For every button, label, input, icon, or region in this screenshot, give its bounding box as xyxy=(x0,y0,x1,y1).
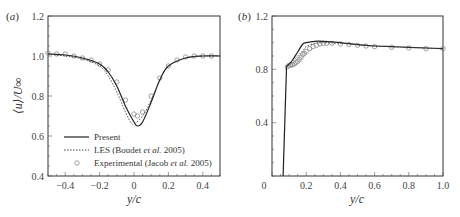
y-tick-label: 0.8 xyxy=(256,64,269,75)
x-tick-label: 0.2 xyxy=(300,180,313,191)
x-tick-label: 0.4 xyxy=(197,180,210,191)
panel-b-plot-area xyxy=(283,41,445,176)
panel-a-y-axis-label: ⟨u⟩/U∞ xyxy=(11,78,25,114)
x-tick-label: 0.8 xyxy=(403,180,416,191)
panel-a-x-axis: −0.4−0.200.20.4 xyxy=(48,172,220,191)
legend-item-present: Present xyxy=(94,132,121,142)
series-line-les xyxy=(48,54,220,124)
y-tick-label: 0.4 xyxy=(256,117,269,128)
x-tick-label: 0.2 xyxy=(162,180,175,191)
data-point-marker xyxy=(135,114,139,118)
panel-b-label: (b) xyxy=(238,10,251,23)
x-tick-label: 0 xyxy=(262,180,267,191)
data-point-marker xyxy=(390,45,394,49)
series-line-present xyxy=(283,41,443,176)
y-tick-label: 1.2 xyxy=(32,11,45,22)
x-tick-label: −0.4 xyxy=(56,180,74,191)
panel-b: (b) 0.40.81.2 00.20.40.60.81.0 y/c xyxy=(238,10,449,206)
y-tick-label: 1.2 xyxy=(256,11,269,22)
y-tick-label: 0.8 xyxy=(32,91,45,102)
y-tick-label: 0.6 xyxy=(32,131,45,142)
panel-a-x-axis-label: y/c xyxy=(126,192,142,206)
x-tick-label: 0.4 xyxy=(334,180,347,191)
y-tick-label: 0.4 xyxy=(32,171,45,182)
panel-a-y-axis: 0.40.60.81.01.2 xyxy=(32,11,53,182)
panel-a: (a) 0.40.60.81.01.2 −0.4−0.200.20.4 y/c … xyxy=(6,10,220,206)
x-tick-label: 0 xyxy=(132,180,137,191)
series-line-present xyxy=(48,54,220,126)
panel-b-frame xyxy=(272,16,443,176)
x-tick-label: 1.0 xyxy=(437,180,450,191)
y-tick-label: 1.0 xyxy=(32,51,45,62)
legend: Present LES (Boudet et al. 2005) Experim… xyxy=(64,132,212,168)
panel-b-x-axis: 00.20.40.60.81.0 xyxy=(262,172,450,191)
data-point-marker xyxy=(407,46,411,50)
panel-a-plot-area xyxy=(46,51,220,126)
x-tick-label: −0.2 xyxy=(91,180,109,191)
data-point-marker xyxy=(140,110,144,114)
panel-b-x-axis-label: y/c xyxy=(349,192,365,206)
panel-a-label: (a) xyxy=(6,10,19,23)
x-tick-label: 0.6 xyxy=(368,180,381,191)
data-point-marker xyxy=(424,46,428,50)
panel-b-y-axis: 0.40.81.2 xyxy=(256,11,277,177)
legend-item-les: LES (Boudet et al. 2005) xyxy=(94,145,185,155)
legend-circle-marker-icon xyxy=(75,161,79,165)
figure: (a) 0.40.60.81.01.2 −0.4−0.200.20.4 y/c … xyxy=(0,0,460,217)
legend-item-experimental: Experimental (Jacob et al. 2005) xyxy=(94,158,212,168)
